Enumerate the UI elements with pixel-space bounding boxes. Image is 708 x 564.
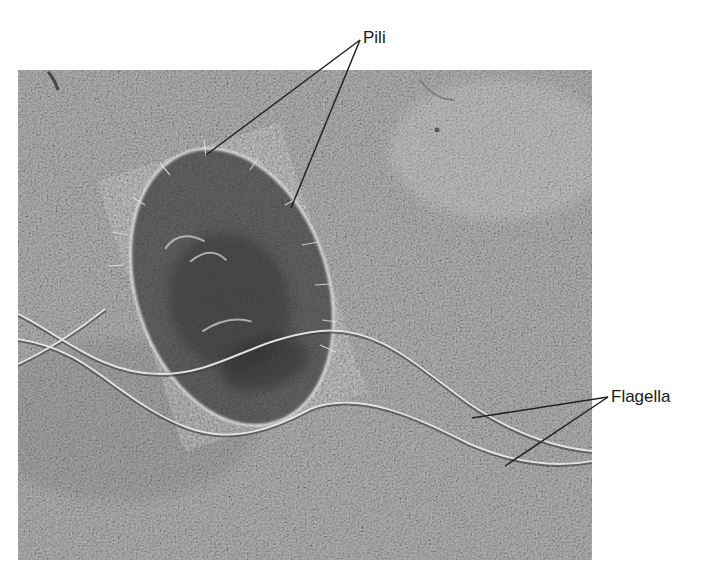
micrograph-figure (0, 0, 708, 564)
pili-label: Pili (363, 29, 386, 46)
micrograph-photo (0, 70, 610, 560)
flagella-label: Flagella (611, 388, 671, 405)
